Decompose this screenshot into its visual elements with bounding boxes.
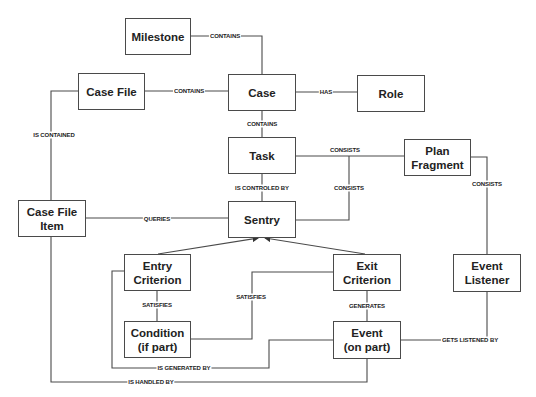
node-sentry: Sentry: [228, 201, 296, 238]
edge-label-milestone-case: CONTAINS: [209, 33, 241, 40]
edge-label-sentry-consists: CONSISTS: [333, 185, 365, 192]
event-listener-label-1: Event: [471, 259, 502, 273]
edge-label-exit-event: GENERATES: [348, 303, 386, 310]
node-plan-fragment: PlanFragment: [404, 139, 471, 176]
event-label-1: Event: [351, 326, 382, 340]
plan-fragment-label-1: Plan: [425, 144, 449, 158]
condition-label-2: (if part): [138, 340, 178, 354]
node-event: Event(on part): [333, 321, 401, 359]
edge-label-entry-condition: SATISFIES: [141, 302, 173, 309]
condition-label-1: Condition: [131, 326, 185, 340]
exit-criterion-label-2: Criterion: [343, 273, 391, 287]
case-file-label: Case File: [86, 85, 137, 99]
edge-label-condition-exit: SATISFIES: [235, 294, 267, 301]
node-entry-criterion: EntryCriterion: [124, 254, 191, 291]
node-milestone: Milestone: [125, 18, 191, 55]
edge-label-case-role: HAS: [319, 89, 333, 96]
edge-label-casefile-item: IS CONTAINED: [32, 132, 75, 139]
exit-criterion-label-1: Exit: [356, 259, 377, 273]
entry-criterion-label-2: Criterion: [134, 273, 182, 287]
edge-label-event-listener: GETS LISTENED BY: [441, 337, 499, 344]
milestone-label: Milestone: [131, 30, 184, 44]
task-label: Task: [249, 149, 274, 163]
edge-entry-sentry: [158, 238, 258, 254]
node-role: Role: [357, 75, 425, 112]
edge-condition-exit: [190, 272, 333, 339]
node-case: Case: [228, 74, 296, 111]
edge-label-task-plan: CONSISTS: [329, 147, 361, 154]
plan-fragment-label-2: Fragment: [411, 158, 463, 172]
edge-label-case-task: CONTAINS: [246, 121, 278, 128]
sentry-label: Sentry: [244, 213, 280, 227]
node-task: Task: [228, 137, 296, 174]
edge-label-plan-listener: CONSISTS: [471, 181, 503, 188]
edge-label-item-sentry: QUERIES: [143, 216, 171, 223]
entry-criterion-label-1: Entry: [143, 259, 172, 273]
node-case-file: Case File: [78, 73, 145, 110]
edge-label-task-sentry: IS CONTROLED BY: [234, 185, 290, 192]
node-event-listener: EventListener: [453, 254, 521, 292]
role-label: Role: [379, 87, 404, 101]
case-file-item-label-1: Case File: [27, 205, 78, 219]
edge-handled-by: [51, 236, 367, 382]
case-file-item-label-2: Item: [40, 219, 64, 233]
edge-milestone-case: [190, 36, 262, 74]
edge-label-generated-by: IS GENERATED BY: [156, 365, 211, 372]
edge-exit-sentry: [265, 238, 365, 254]
edge-casefile-item: [51, 91, 78, 200]
edge-event-listener: [400, 291, 487, 340]
event-label-2: (on part): [344, 340, 391, 354]
event-listener-label-2: Listener: [465, 273, 510, 287]
node-case-file-item: Case FileItem: [18, 200, 86, 237]
node-condition: Condition(if part): [124, 321, 191, 358]
node-exit-criterion: ExitCriterion: [333, 254, 401, 291]
edge-label-handled-by: IS HANDLED BY: [127, 379, 174, 386]
edge-label-casefile-case: CONTAINS: [173, 88, 205, 95]
case-label: Case: [248, 86, 276, 100]
edge-plan-listener: [470, 157, 487, 254]
